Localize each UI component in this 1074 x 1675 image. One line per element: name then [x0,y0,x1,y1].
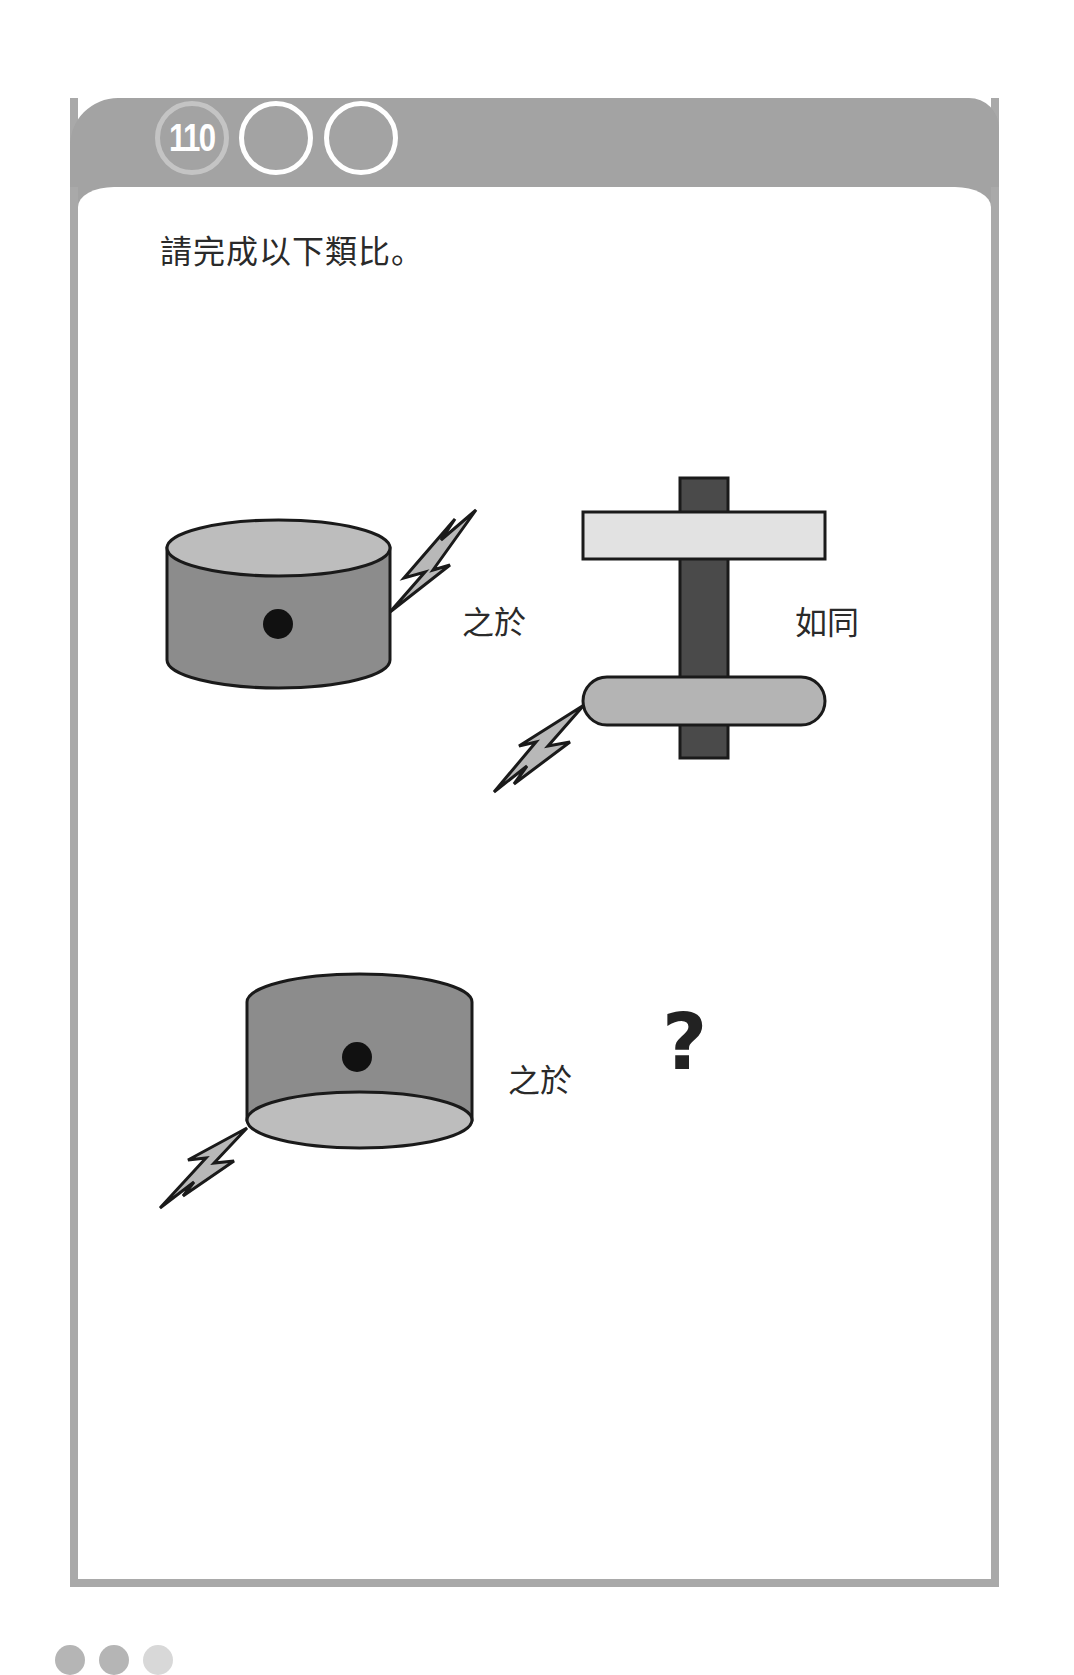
footer-decoration [55,1645,173,1675]
pill [583,677,825,725]
connector-label: 如同 [795,597,859,643]
cylinder-bottom-view-figure [160,974,472,1208]
dot-icon [263,609,293,639]
footer-dot [143,1645,173,1675]
footer-dot [55,1645,85,1675]
answer-question-mark: ? [662,1003,707,1081]
lightning-bolt-icon [494,705,584,792]
cylinder-top-view-figure [167,510,476,688]
dot-icon [342,1042,372,1072]
lightning-bolt-icon [160,1128,247,1208]
footer-dot [99,1645,129,1675]
relation-label-1: 之於 [462,597,526,643]
plank [583,512,825,559]
post-plank-figure [494,478,825,792]
relation-label-2: 之於 [508,1055,572,1101]
